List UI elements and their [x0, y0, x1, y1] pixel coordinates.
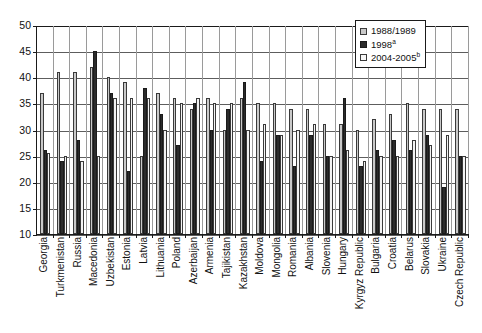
x-axis-label-cell: Croatia	[385, 237, 402, 332]
y-tick-label-25: 25	[0, 151, 31, 162]
bar-group	[220, 26, 237, 234]
x-axis-label: Slovakia	[421, 237, 431, 275]
x-axis-label-cell: Bulgaria	[368, 237, 385, 332]
legend-swatch-icon	[360, 54, 367, 61]
group-separator	[468, 26, 469, 234]
bar	[429, 145, 432, 234]
x-axis-label-cell: Hungary	[335, 237, 352, 332]
x-axis-label: Turkmenistan	[56, 237, 66, 297]
legend-label: 1988/1989	[371, 26, 416, 36]
x-axis-label: Ukraine	[438, 237, 448, 271]
bar	[196, 98, 199, 234]
x-axis-label: Georgia	[39, 237, 49, 273]
bar	[80, 161, 83, 234]
bar-group	[170, 26, 187, 234]
bar-group	[54, 26, 71, 234]
bar	[329, 156, 332, 234]
x-axis-label-cell: Turkmenistan	[53, 237, 70, 332]
bar	[64, 156, 67, 234]
bar	[263, 124, 266, 234]
x-axis-label: Macedonia	[89, 237, 99, 286]
bar	[163, 130, 166, 235]
bar	[346, 150, 349, 234]
x-axis-label: Tajikistan	[222, 237, 232, 278]
x-axis-labels: GeorgiaTurkmenistanRussiaMacedoniaUzbeki…	[36, 237, 468, 332]
x-axis-label: Russia	[73, 237, 83, 268]
x-axis-label: Azerbaijan	[189, 237, 199, 284]
x-axis-label-cell: Romania	[285, 237, 302, 332]
bar-group	[186, 26, 203, 234]
x-axis-label: Kazakhstan	[239, 237, 249, 289]
x-axis-label-cell: Slovenia	[318, 237, 335, 332]
bar-group	[303, 26, 320, 234]
bar	[280, 135, 283, 234]
y-tick-label-30: 30	[0, 125, 31, 136]
x-axis-label-cell: Armenia	[202, 237, 219, 332]
x-axis-label: Poland	[172, 237, 182, 268]
x-axis-label: Romania	[288, 237, 298, 277]
legend: 1988/19891998a2004-2005b	[355, 20, 426, 68]
bar-group	[236, 26, 253, 234]
bar-group	[319, 26, 336, 234]
bar-group	[336, 26, 353, 234]
bar-group	[120, 26, 137, 234]
bar	[147, 98, 150, 234]
bar	[113, 98, 116, 234]
x-axis-label-cell: Moldova	[252, 237, 269, 332]
bar	[412, 140, 415, 234]
x-axis-label-cell: Belarus	[401, 237, 418, 332]
bar	[97, 156, 100, 234]
x-axis-label-cell: Uzbekistan	[102, 237, 119, 332]
x-axis-label: Kyrgyz Republic	[355, 237, 365, 309]
legend-item: 1988/1989	[360, 25, 420, 37]
x-axis-label: Uzbekistan	[106, 237, 116, 286]
x-axis-label-cell: Azerbaijan	[185, 237, 202, 332]
bar	[230, 103, 233, 234]
legend-label: 1998a	[371, 39, 396, 50]
legend-swatch-icon	[360, 41, 367, 48]
bar-group	[253, 26, 270, 234]
x-axis-label: Croatia	[388, 237, 398, 269]
bar	[313, 124, 316, 234]
bar-group	[87, 26, 104, 234]
x-axis-label: Czech Republic	[455, 237, 465, 307]
bar	[446, 135, 449, 234]
x-axis-label: Belarus	[405, 237, 415, 271]
x-axis-label-cell: Albania	[302, 237, 319, 332]
y-tick-label-15: 15	[0, 203, 31, 214]
x-axis-label: Latvia	[139, 237, 149, 264]
y-tick-label-35: 35	[0, 98, 31, 109]
bar-group	[137, 26, 154, 234]
bar	[246, 130, 249, 235]
legend-item: 2004-2005b	[360, 51, 420, 63]
x-axis-label-cell: Kyrgyz Republic	[352, 237, 369, 332]
legend-footnote-marker: a	[392, 38, 396, 45]
x-axis-label: Estonia	[122, 237, 132, 270]
y-tick-label-20: 20	[0, 177, 31, 188]
bar	[296, 130, 299, 235]
bar	[47, 153, 50, 234]
bar	[180, 103, 183, 234]
x-axis-label-cell: Latvia	[136, 237, 153, 332]
x-axis-label: Moldova	[255, 237, 265, 275]
legend-swatch-icon	[360, 28, 367, 35]
x-axis-label: Albania	[305, 237, 315, 270]
x-axis-label-cell: Poland	[169, 237, 186, 332]
bar-group	[70, 26, 87, 234]
x-axis-label: Hungary	[338, 237, 348, 275]
y-tick-label-10: 10	[0, 229, 31, 240]
x-axis-label-cell: Kazakhstan	[235, 237, 252, 332]
x-axis-label: Slovenia	[322, 237, 332, 275]
bar-group	[270, 26, 287, 234]
y-tick-label-50: 50	[0, 20, 31, 31]
x-axis-label: Armenia	[205, 237, 215, 274]
x-axis-label-cell: Mongolia	[269, 237, 286, 332]
x-axis-label-cell: Georgia	[36, 237, 53, 332]
bar	[213, 103, 216, 234]
bar-group	[37, 26, 54, 234]
x-axis-label-cell: Ukraine	[435, 237, 452, 332]
bar	[396, 156, 399, 234]
y-tick-mark-10	[33, 235, 37, 236]
x-axis-label-cell: Czech Republic	[451, 237, 468, 332]
bar-group	[436, 26, 453, 234]
